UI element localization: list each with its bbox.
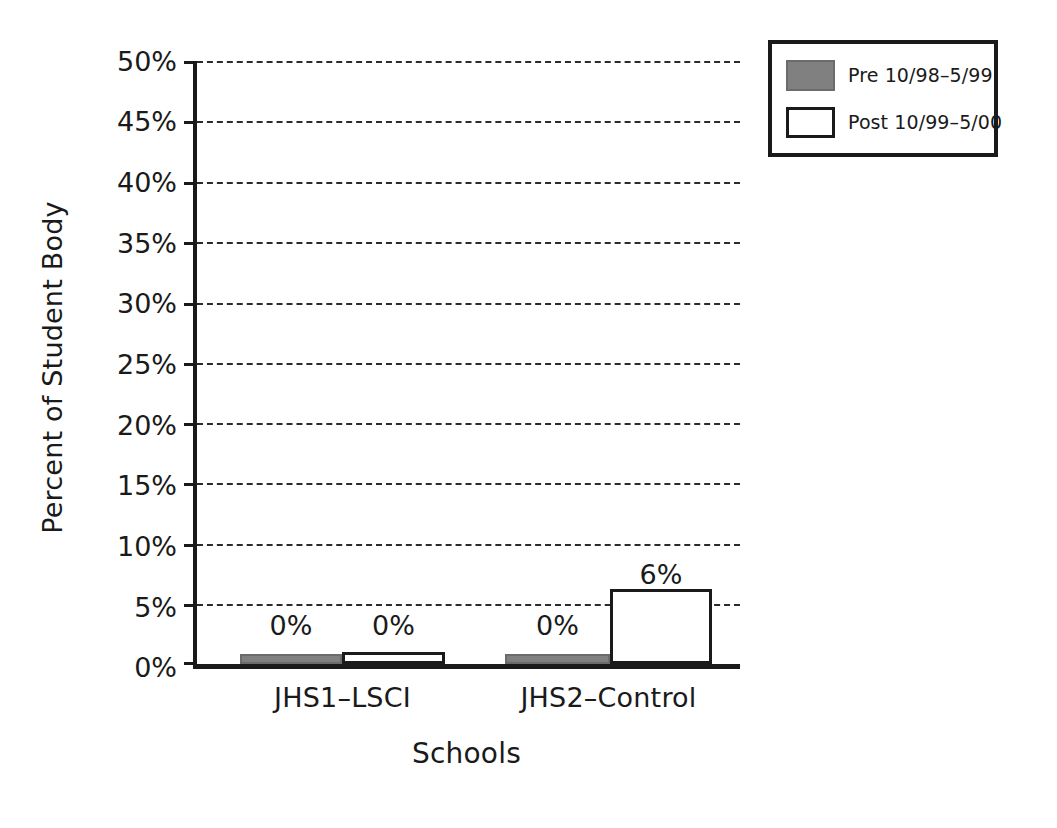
- gridline-40: [197, 182, 740, 184]
- y-axis-tick: [184, 61, 193, 64]
- legend-label-pre: Pre 10/98–5/99: [848, 64, 993, 86]
- y-axis-tick: [184, 604, 193, 607]
- bar-post-jhs2[interactable]: [610, 589, 712, 664]
- x-tick-label-jhs1: JHS1–LSCI: [240, 682, 445, 713]
- legend-item-pre[interactable]: Pre 10/98–5/99: [786, 57, 993, 93]
- y-tick-label: 50%: [55, 48, 177, 75]
- legend: Pre 10/98–5/99 Post 10/99–5/00: [768, 40, 998, 157]
- legend-label-post: Post 10/99–5/00: [848, 111, 1002, 133]
- y-axis-tick: [184, 423, 193, 426]
- bar-value-post-jhs2: 6%: [610, 561, 712, 588]
- gridline-45: [197, 121, 740, 123]
- x-tick-label-jhs2: JHS2–Control: [505, 682, 712, 713]
- bar-value-pre-jhs2: 0%: [505, 612, 610, 639]
- y-tick-label: 25%: [55, 351, 177, 378]
- y-axis-tick: [184, 242, 193, 245]
- legend-swatch-pre-icon: [786, 60, 835, 91]
- bar-pre-jhs1[interactable]: [240, 654, 342, 664]
- y-tick-label: 15%: [55, 472, 177, 499]
- y-tick-label: 30%: [55, 290, 177, 317]
- y-axis-tick: [184, 121, 193, 124]
- y-tick-label: 45%: [55, 108, 177, 135]
- y-axis-tick: [184, 363, 193, 366]
- gridline-30: [197, 303, 740, 305]
- y-axis-tick: [184, 544, 193, 547]
- plot-area: 0% 0% 0% 6%: [193, 61, 740, 668]
- y-tick-label: 0%: [55, 654, 177, 681]
- gridline-10: [197, 544, 740, 546]
- x-axis-line: [193, 664, 740, 669]
- gridline-20: [197, 423, 740, 425]
- legend-item-post[interactable]: Post 10/99–5/00: [786, 104, 1002, 140]
- y-axis-tick: [184, 182, 193, 185]
- legend-swatch-post-icon: [786, 107, 835, 138]
- gridline-15: [197, 483, 740, 485]
- y-axis-title: Percent of Student Body: [37, 158, 68, 578]
- gridline-50: [197, 61, 740, 63]
- y-axis-tick: [184, 303, 193, 306]
- y-tick-label: 5%: [55, 594, 177, 621]
- y-tick-label: 20%: [55, 412, 177, 439]
- gridline-35: [197, 242, 740, 244]
- bar-post-jhs1[interactable]: [342, 652, 445, 664]
- y-axis-tick: [184, 483, 193, 486]
- y-tick-label: 35%: [55, 230, 177, 257]
- bar-value-post-jhs1: 0%: [342, 612, 445, 639]
- y-tick-label: 10%: [55, 533, 177, 560]
- x-axis-title: Schools: [193, 737, 740, 770]
- bar-pre-jhs2[interactable]: [505, 654, 610, 664]
- y-tick-label: 40%: [55, 169, 177, 196]
- y-axis-tick: [184, 662, 193, 665]
- gridline-25: [197, 363, 740, 365]
- bar-chart: Percent of Student Body 50% 45% 40% 35% …: [0, 0, 1057, 828]
- bar-value-pre-jhs1: 0%: [240, 612, 342, 639]
